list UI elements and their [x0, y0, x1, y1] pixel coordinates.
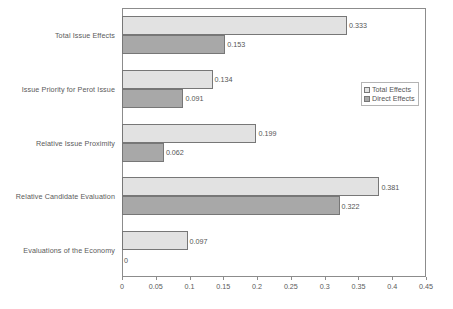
bar-direct-effects [122, 35, 225, 54]
bar-value-label: 0.199 [258, 129, 276, 138]
category-label: Total Issue Effects [55, 30, 115, 39]
bar-direct-effects [122, 89, 183, 108]
bar-total-effects [122, 70, 213, 89]
x-axis-tick [190, 277, 191, 280]
bar-direct-effects [122, 143, 164, 162]
legend-swatch-direct-effects [364, 96, 370, 102]
x-axis-tick [122, 277, 123, 280]
bar-total-effects [122, 177, 379, 196]
category-label: Relative Candidate Evaluation [16, 192, 115, 201]
x-axis-tick-label: 0.45 [419, 282, 433, 291]
x-axis-tick [257, 277, 258, 280]
legend-label-direct-effects: Direct Effects [372, 94, 415, 103]
x-axis-tick-label: 0.2 [252, 282, 262, 291]
bar-total-effects [122, 16, 347, 35]
bar-value-label: 0.153 [227, 40, 245, 49]
legend-swatch-total-effects [364, 87, 370, 93]
x-axis-tick [392, 277, 393, 280]
category-axis-labels: Total Issue EffectsIssue Priority for Pe… [0, 0, 119, 309]
x-axis-tick-label: 0.15 [216, 282, 230, 291]
x-axis-tick-label: 0.3 [320, 282, 330, 291]
category-label: Evaluations of the Economy [23, 246, 115, 255]
legend: Total Effects Direct Effects [361, 82, 419, 106]
legend-item: Total Effects [364, 85, 415, 94]
x-axis-tick [426, 277, 427, 280]
x-axis-tick-label: 0.1 [185, 282, 195, 291]
bar-total-effects [122, 231, 188, 250]
bar-value-label: 0.333 [349, 21, 367, 30]
bar-value-label: 0.097 [190, 236, 208, 245]
x-axis-tick [291, 277, 292, 280]
x-axis-tick-label: 0.25 [284, 282, 298, 291]
bar-value-label: 0.091 [185, 94, 203, 103]
x-axis-tick [325, 277, 326, 280]
legend-item: Direct Effects [364, 94, 415, 103]
x-axis-tick [156, 277, 157, 280]
bar-value-label: 0.062 [166, 148, 184, 157]
x-axis-tick-label: 0.4 [387, 282, 397, 291]
bar-chart: Total Issue EffectsIssue Priority for Pe… [0, 0, 453, 309]
x-axis-tick-label: 0.05 [149, 282, 163, 291]
category-label: Issue Priority for Perot Issue [22, 84, 115, 93]
bar-value-label: 0 [124, 255, 128, 264]
bar-value-label: 0.381 [381, 182, 399, 191]
bar-value-label: 0.322 [342, 201, 360, 210]
x-axis-tick-label: 0.35 [351, 282, 365, 291]
x-axis-tick [358, 277, 359, 280]
bar-direct-effects [122, 196, 340, 215]
x-axis-tick [223, 277, 224, 280]
x-axis: 00.050.10.150.20.250.30.350.40.45 [122, 277, 426, 303]
bar-value-label: 0.134 [215, 75, 233, 84]
x-axis-tick-label: 0 [120, 282, 124, 291]
legend-label-total-effects: Total Effects [372, 85, 411, 94]
bar-total-effects [122, 124, 256, 143]
category-label: Relative Issue Proximity [36, 138, 115, 147]
